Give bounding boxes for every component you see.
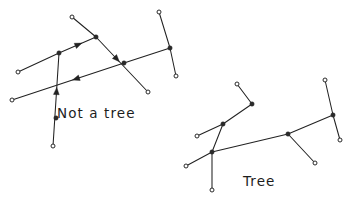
- graph-node: [157, 10, 161, 14]
- graph-edge: [170, 48, 176, 76]
- graph-node: [286, 132, 290, 136]
- graph-node: [70, 15, 74, 19]
- graph-node: [210, 150, 214, 154]
- graph-node: [313, 161, 317, 165]
- edges-layer: [12, 12, 340, 190]
- graph-edge: [333, 115, 340, 140]
- graph-node: [146, 90, 150, 94]
- graph-node: [122, 61, 126, 65]
- graph-node: [331, 113, 335, 117]
- graph-edge: [288, 115, 333, 134]
- graph-edge: [212, 134, 288, 152]
- graph-node: [57, 51, 61, 55]
- graph-node: [16, 70, 20, 74]
- graph-edge: [18, 53, 59, 72]
- graph-edge: [325, 80, 333, 115]
- edge-arrowhead-icon: [53, 87, 59, 94]
- graph-edge: [237, 84, 252, 104]
- graph-node: [174, 74, 178, 78]
- graph-figure: Not a treeTree: [0, 0, 355, 217]
- graph-node: [195, 134, 199, 138]
- graph-edge: [186, 152, 212, 166]
- graph-node: [51, 144, 55, 148]
- graph-edge: [96, 37, 148, 92]
- caption-tree: Tree: [242, 173, 276, 189]
- graph-edge: [159, 12, 170, 48]
- graph-node: [323, 78, 327, 82]
- graph-node: [184, 164, 188, 168]
- graph-node: [235, 82, 239, 86]
- graph-edge: [72, 17, 96, 37]
- graph-edge: [124, 48, 170, 63]
- graph-node: [210, 188, 214, 192]
- graph-node: [338, 138, 342, 142]
- caption-not-a-tree: Not a tree: [57, 105, 136, 121]
- graph-edge: [53, 53, 59, 146]
- graph-node: [10, 98, 14, 102]
- edge-arrowhead-icon: [74, 43, 82, 49]
- graph-edge: [12, 63, 124, 100]
- captions-layer: Not a treeTree: [57, 105, 276, 189]
- graph-canvas: Not a treeTree: [0, 0, 355, 217]
- graph-edge: [223, 104, 252, 124]
- graph-edge: [288, 134, 315, 163]
- graph-node: [94, 35, 98, 39]
- nodes-layer: [10, 10, 342, 192]
- edge-arrowhead-icon: [72, 75, 80, 81]
- graph-node: [168, 46, 172, 50]
- graph-node: [250, 102, 254, 106]
- graph-node: [221, 122, 225, 126]
